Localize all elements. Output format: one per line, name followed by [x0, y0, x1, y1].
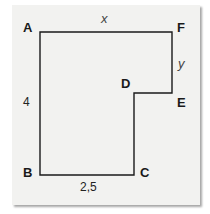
vertex-label-f: F	[177, 21, 185, 34]
vertex-label-b: B	[23, 166, 32, 179]
vertex-label-c: C	[140, 166, 149, 179]
dimension-x: x	[101, 12, 108, 25]
vertex-label-e: E	[177, 96, 186, 109]
dimension-bottom: 2,5	[80, 181, 97, 193]
dimension-y: y	[178, 57, 185, 70]
dimension-left: 4	[23, 96, 30, 108]
l-shape-outline	[40, 32, 172, 175]
vertex-label-d: D	[121, 77, 130, 90]
vertex-label-a: A	[23, 21, 32, 34]
